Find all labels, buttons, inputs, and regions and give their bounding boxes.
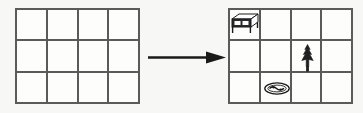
grid-before-cell-r2c3[interactable] (79, 41, 110, 72)
grid-after-cell-r2c2[interactable] (261, 41, 292, 72)
right-arrow-icon (148, 51, 226, 64)
grid-before-cell-r1c1[interactable] (17, 10, 48, 41)
grid-before (15, 8, 140, 104)
grid-before-cell-r2c4[interactable] (109, 41, 140, 72)
grid-after-cell-r1c1[interactable] (230, 10, 261, 41)
grid-before-cell-r1c4[interactable] (109, 10, 140, 41)
grid-before-cell-r1c3[interactable] (79, 10, 110, 41)
grid-after-cell-r1c4[interactable] (322, 10, 353, 41)
grid-before-cell-r3c2[interactable] (48, 73, 79, 104)
grid-after-cell-r1c2[interactable] (261, 10, 292, 41)
grid-after-cell-r2c4[interactable] (322, 41, 353, 72)
oval-rug-icon (264, 82, 290, 95)
grid-after-cell-r3c1[interactable] (230, 73, 261, 104)
pine-tree-icon (299, 44, 316, 72)
grid-before-cell-r2c1[interactable] (17, 41, 48, 72)
grid-before-cell-r3c4[interactable] (109, 73, 140, 104)
grid-after-cell-r2c1[interactable] (230, 41, 261, 72)
table-icon (231, 12, 259, 34)
grid-before-cell-r2c2[interactable] (48, 41, 79, 72)
scene-canvas (0, 0, 363, 113)
grid-after-cell-r2c3[interactable] (292, 41, 323, 72)
grid-after-cell-r1c3[interactable] (292, 10, 323, 41)
grid-after-cell-r3c2[interactable] (261, 73, 292, 104)
grid-after-cell-r3c4[interactable] (322, 73, 353, 104)
grid-after-cell-r3c3[interactable] (292, 73, 323, 104)
grid-after (228, 8, 353, 104)
grid-before-cell-r1c2[interactable] (48, 10, 79, 41)
grid-before-cell-r3c3[interactable] (79, 73, 110, 104)
grid-before-cell-r3c1[interactable] (17, 73, 48, 104)
